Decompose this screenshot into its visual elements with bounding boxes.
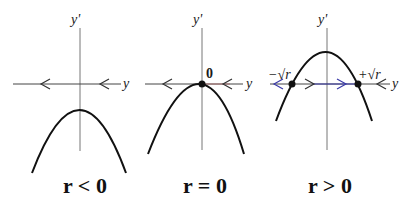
- fixed-point-label-negative: −√r: [268, 67, 291, 82]
- vertical-axis-label: y': [69, 12, 81, 27]
- horizontal-axis-label: y: [121, 76, 130, 91]
- panel-caption: r = 0: [183, 173, 227, 198]
- vertical-axis-label: y': [191, 12, 203, 27]
- panel-r-positive: y' y −√r +√r r > 0: [268, 12, 399, 198]
- parabola-curve: [32, 110, 126, 173]
- panel-r-negative: y' y r < 0: [13, 12, 130, 198]
- panel-caption: r < 0: [63, 173, 107, 198]
- vertical-axis-label: y': [316, 12, 328, 27]
- fixed-point-dot: [199, 81, 206, 88]
- fixed-point-label: 0: [206, 66, 213, 81]
- fixed-point-label-positive: +√r: [358, 67, 381, 82]
- horizontal-axis-label: y: [244, 76, 253, 91]
- panel-caption: r > 0: [308, 173, 352, 198]
- horizontal-axis-label: y: [390, 76, 399, 91]
- panel-r-zero: y' y 0 r = 0: [145, 12, 253, 198]
- parabola-curve: [148, 84, 244, 154]
- bifurcation-figure: y' y r < 0 y' y 0 r = 0 y' y: [0, 0, 415, 202]
